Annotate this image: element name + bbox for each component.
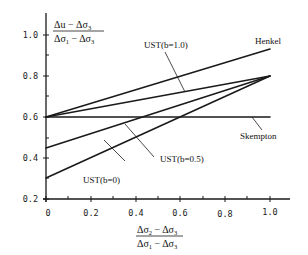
label-henkel: Henkel <box>255 36 281 46</box>
x-axis-label: Δσ2 − Δσ3 Δσ1 − Δσ3 <box>136 224 183 250</box>
x-tick-labels: 0 0.2 0.4 0.6 0.8 1.0 <box>45 207 277 219</box>
x-tick-label: 0.6 <box>172 208 187 218</box>
label-ust-b0: UST(b=0) <box>83 175 120 185</box>
y-tick-label: 0.2 <box>23 194 38 204</box>
x-tick-label: 0.4 <box>128 208 143 218</box>
svg-text:Δσ2 − Δσ3: Δσ2 − Δσ3 <box>137 224 177 236</box>
line-ust-b1 <box>46 76 270 117</box>
svg-text:Δσ1 − Δσ3: Δσ1 − Δσ3 <box>54 33 94 45</box>
x-tick-label: 0 <box>45 208 50 218</box>
label-ust-b1: UST(b=1.0) <box>144 40 188 50</box>
series-lines <box>46 49 270 178</box>
line-ust-b0 <box>46 76 270 178</box>
line-ust-b05 <box>46 76 270 148</box>
y-tick-label: 0.6 <box>23 112 38 122</box>
label-skempton: Skempton <box>240 131 277 141</box>
y-tick-label: 0.4 <box>23 153 38 163</box>
leader-lines <box>104 52 262 161</box>
svg-text:Δu − Δσ3: Δu − Δσ3 <box>54 19 91 31</box>
label-ust-b05: UST(b=0.5) <box>160 154 204 164</box>
y-tick-label: 0.8 <box>23 71 38 81</box>
y-tick-labels: 1.0 0.8 0.6 0.4 0.2 <box>23 30 38 204</box>
chart: 1.0 0.8 0.6 0.4 0.2 0 0.2 0.4 0.6 0.8 1.… <box>0 0 308 255</box>
x-tick-label: 1.0 <box>262 207 277 217</box>
x-tick-label: 0.8 <box>217 209 232 219</box>
svg-text:Δσ1 − Δσ3: Δσ1 − Δσ3 <box>137 238 177 250</box>
y-axis-label: Δu − Δσ3 Δσ1 − Δσ3 <box>53 19 104 45</box>
line-henkel <box>46 49 270 117</box>
x-tick-label: 0.2 <box>83 208 98 218</box>
y-tick-label: 1.0 <box>23 30 38 40</box>
